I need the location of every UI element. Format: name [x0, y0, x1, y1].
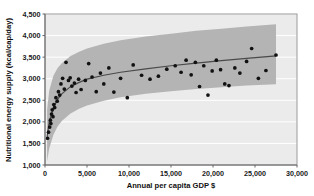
y-tick-label: 4,500: [23, 10, 41, 19]
data-point: [173, 64, 177, 68]
data-point: [210, 69, 214, 73]
data-point: [49, 118, 53, 122]
y-tick-label: 2,500: [23, 96, 41, 105]
x-tick-label: 0: [43, 169, 47, 178]
data-point: [264, 69, 268, 73]
data-point: [59, 82, 63, 86]
data-point: [274, 53, 278, 57]
y-tick-label: 1,000: [23, 161, 41, 170]
data-point: [194, 60, 198, 64]
y-tick-label: 3,500: [23, 53, 41, 62]
data-point: [238, 71, 242, 75]
data-point: [215, 58, 219, 62]
y-tick-label: 1,500: [23, 139, 41, 148]
data-point: [165, 67, 169, 71]
data-point: [94, 90, 98, 94]
data-point: [233, 66, 237, 70]
y-tick-label: 2,000: [23, 117, 41, 126]
data-point: [46, 136, 50, 140]
y-tick-label: 3,000: [23, 74, 41, 83]
data-point: [112, 90, 116, 94]
data-point: [148, 77, 152, 81]
y-axis-ticks: 1,0001,5002,0002,5003,0003,5004,0004,500: [23, 10, 46, 170]
y-tick-label: 4,000: [23, 31, 41, 40]
data-point: [189, 73, 193, 77]
data-point: [83, 79, 87, 83]
data-point: [179, 70, 183, 74]
x-tick-label: 5,000: [78, 169, 96, 178]
data-point: [58, 93, 62, 97]
data-point: [227, 84, 231, 88]
data-point: [184, 58, 188, 62]
x-tick-label: 10,000: [118, 169, 140, 178]
data-point: [55, 99, 59, 103]
data-point: [202, 64, 206, 68]
x-tick-label: 25,000: [244, 169, 266, 178]
data-point: [64, 60, 68, 64]
data-point: [47, 130, 51, 134]
data-point: [90, 75, 94, 79]
data-point: [119, 76, 123, 80]
data-point: [223, 82, 227, 86]
data-point: [51, 115, 55, 119]
data-point: [87, 62, 91, 66]
data-point: [157, 74, 161, 78]
x-axis-title: Annual per capita GDP $: [127, 181, 216, 190]
data-point: [140, 73, 144, 77]
data-point: [219, 68, 223, 72]
x-axis-ticks: 05,00010,00015,00020,00025,00030,000: [43, 165, 308, 178]
data-point: [206, 93, 210, 97]
data-point: [61, 76, 65, 80]
data-point: [62, 87, 66, 91]
data-point: [99, 71, 103, 75]
data-point: [250, 47, 254, 51]
x-tick-label: 20,000: [202, 169, 224, 178]
data-point: [70, 84, 74, 88]
data-point: [68, 76, 72, 80]
chart-canvas: 1,0001,5002,0002,5003,0003,5004,0004,500…: [0, 0, 314, 196]
data-point: [131, 63, 135, 67]
data-point: [74, 91, 78, 95]
data-point: [57, 90, 61, 94]
scatter-chart: 1,0001,5002,0002,5003,0003,5004,0004,500…: [0, 0, 314, 196]
data-point: [79, 88, 83, 92]
data-point: [48, 125, 52, 129]
data-point: [54, 96, 58, 100]
x-tick-label: 15,000: [160, 169, 182, 178]
data-point: [73, 81, 77, 85]
data-point: [102, 82, 106, 86]
data-point: [49, 122, 53, 126]
data-point: [245, 60, 249, 64]
data-point: [125, 96, 129, 100]
data-point: [198, 85, 202, 89]
data-point: [53, 106, 57, 110]
y-axis-title: Nutritional energy supply (kcal/cap/day): [4, 18, 13, 162]
data-point: [77, 77, 81, 81]
x-tick-label: 30,000: [286, 169, 308, 178]
data-point: [107, 66, 111, 70]
data-point: [257, 76, 261, 80]
